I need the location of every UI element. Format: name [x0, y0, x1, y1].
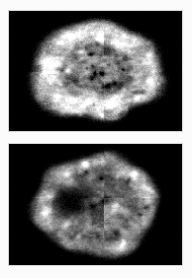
scan-panel-top[interactable] — [8, 10, 183, 132]
scan-panel-bottom[interactable] — [8, 143, 183, 266]
brain-scan-image-bottom — [9, 144, 182, 265]
brain-scan-image-top — [9, 11, 182, 131]
figure-sheet — [0, 0, 192, 278]
